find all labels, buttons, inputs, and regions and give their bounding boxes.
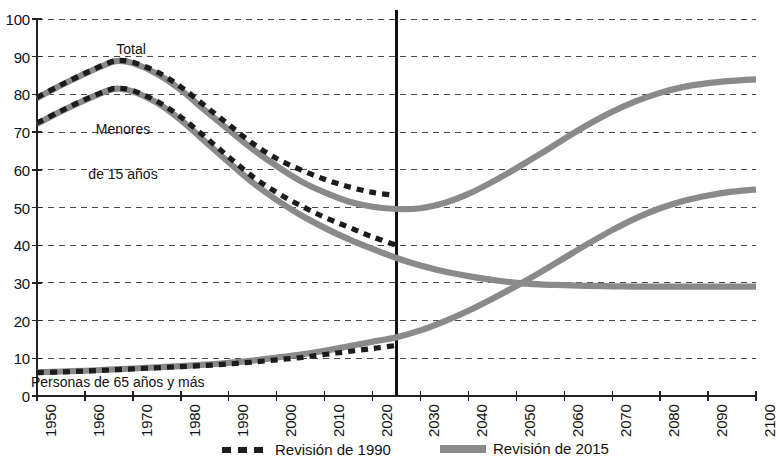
y-tick-label: 0 (0, 389, 30, 404)
x-tick-label: 2020 (379, 404, 394, 437)
annotation-menores-line1: Menores (80, 122, 166, 137)
y-tick-label: 10 (0, 351, 30, 366)
y-tick-label: 60 (0, 163, 30, 178)
annotation-personas-65-y-mas: Personas de 65 años y más (31, 375, 251, 390)
x-tick-label: 2040 (474, 404, 489, 437)
x-tick-label: 1980 (187, 404, 202, 437)
y-tick-label: 90 (0, 50, 30, 65)
y-tick-label: 70 (0, 125, 30, 140)
annotation-menores-line2: de 15 años (80, 167, 166, 182)
y-tick-label: 30 (0, 276, 30, 291)
legend-item-revision-2015: Revisión de 2015 (440, 441, 609, 457)
annotation-menores-de-15-anos: Menores de 15 años (80, 92, 166, 212)
x-tick-label: 1990 (235, 404, 250, 437)
x-tick-label: 2050 (522, 404, 537, 437)
y-tick-label: 40 (0, 238, 30, 253)
x-tick-label: 2060 (570, 404, 585, 437)
x-tick-label: 1950 (43, 404, 58, 437)
x-tick-label: 2070 (618, 404, 633, 437)
y-tick-label: 80 (0, 87, 30, 102)
legend-label-revision-2015: Revisión de 2015 (493, 441, 609, 457)
legend-swatch-dashed (222, 447, 268, 453)
y-tick-label: 50 (0, 201, 30, 216)
x-tick-label: 2010 (331, 404, 346, 437)
legend-swatch-solid (440, 445, 486, 453)
x-tick-label: 2000 (283, 404, 298, 437)
x-tick-label: 1960 (91, 404, 106, 437)
chart-legend: Revisión de 1990 Revisión de 2015 (0, 440, 766, 464)
y-tick-label: 100 (0, 12, 30, 27)
annotation-total: Total (96, 42, 166, 57)
legend-item-revision-1990: Revisión de 1990 (222, 442, 391, 458)
legend-label-revision-1990: Revisión de 1990 (275, 442, 391, 458)
x-tick-label: 2080 (666, 404, 681, 437)
y-tick-label: 20 (0, 314, 30, 329)
x-tick-label: 1970 (139, 404, 154, 437)
x-tick-label: 2100 (762, 404, 777, 437)
x-tick-label: 2030 (426, 404, 441, 437)
x-tick-label: 2090 (714, 404, 729, 437)
